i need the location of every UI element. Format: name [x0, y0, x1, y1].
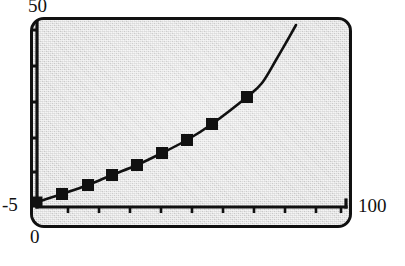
plot-frame: [30, 17, 352, 228]
plot-vignette: [33, 20, 349, 225]
y-axis-max-label: 50: [28, 0, 47, 15]
y-axis-min-label: -5: [2, 195, 18, 214]
x-axis-max-label: 100: [358, 196, 387, 215]
graph-screenshot: 50 -5 0 100: [0, 0, 405, 266]
x-axis-min-label: 0: [30, 227, 40, 246]
plot-background-texture: [33, 20, 349, 225]
